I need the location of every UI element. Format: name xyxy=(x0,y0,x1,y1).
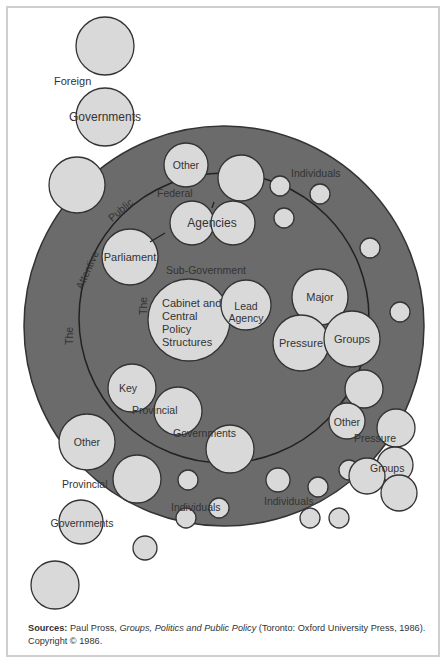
label-major: Major xyxy=(306,291,334,303)
label-groups-inner: Groups xyxy=(334,333,371,345)
label-provincial-outer: Provincial xyxy=(62,478,108,490)
pressure-group-bubble xyxy=(381,475,417,511)
label-cabinet-4: Structures xyxy=(162,336,213,348)
label-governments-inner: Governments xyxy=(173,427,236,439)
individual-bubble xyxy=(329,508,349,528)
label-other-provincial: Other xyxy=(74,436,101,448)
label-foreign-governments: Governments xyxy=(69,110,141,124)
label-groups-outer: Groups xyxy=(370,462,404,474)
label-agency: Agency xyxy=(228,312,264,324)
copyright-text: Copyright © 1986. xyxy=(28,636,102,646)
label-cabinet-1: Cabinet and xyxy=(162,297,221,309)
individual-bubble xyxy=(266,468,290,492)
individual-bubble xyxy=(360,238,380,258)
foreign-gov-bubble-1 xyxy=(76,17,134,75)
individual-bubble xyxy=(300,508,320,528)
source-caption: Sources: Paul Pross, Groups, Politics an… xyxy=(28,622,438,648)
label-lead: Lead xyxy=(234,300,258,312)
individual-bubble xyxy=(178,470,198,490)
individual-bubble xyxy=(274,208,294,228)
label-individuals-left: Individuals xyxy=(171,501,221,513)
label-pressure-outer: Pressure xyxy=(354,432,396,444)
label-federal: Federal xyxy=(157,187,193,199)
label-provincial-inner: Provincial xyxy=(132,404,178,416)
source-publisher: (Toronto: Oxford University Press, 1986)… xyxy=(256,623,425,633)
individual-bubble xyxy=(308,477,328,497)
individual-bubble xyxy=(133,536,157,560)
label-other-pressure: Other xyxy=(334,416,361,428)
individual-bubble xyxy=(310,184,330,204)
policy-community-diagram: Foreign Governments Other Federal Agenci… xyxy=(0,0,448,666)
source-author: Paul Pross, xyxy=(70,623,120,633)
label-governments-outer: Governments xyxy=(50,517,113,529)
label-cabinet-3: Policy xyxy=(162,323,192,335)
label-the-outer: The xyxy=(63,327,75,345)
label-individuals-top: Individuals xyxy=(291,167,341,179)
label-individuals-right: Individuals xyxy=(264,495,314,507)
federal-bubble xyxy=(218,155,264,201)
source-book-title: Groups, Politics and Public Policy xyxy=(119,623,256,633)
label-agencies: Agencies xyxy=(187,216,236,230)
individual-bubble xyxy=(390,302,410,322)
label-pressure-inner: Pressure xyxy=(279,337,323,349)
attentive-bubble xyxy=(113,455,161,503)
outer-bubble xyxy=(31,561,79,609)
label-parliament: Parliament xyxy=(104,251,157,263)
label-foreign: Foreign xyxy=(54,75,91,87)
sources-label: Sources: xyxy=(28,623,67,633)
label-cabinet-2: Central xyxy=(162,310,197,322)
label-key: Key xyxy=(119,382,138,394)
individual-bubble xyxy=(270,176,290,196)
pressure-group-bubble xyxy=(345,370,383,408)
label-sub-government: Sub-Government xyxy=(166,264,246,276)
label-other-federal: Other xyxy=(173,159,200,171)
label-the-inner: The xyxy=(137,297,149,315)
attentive-bubble-left xyxy=(49,157,105,213)
